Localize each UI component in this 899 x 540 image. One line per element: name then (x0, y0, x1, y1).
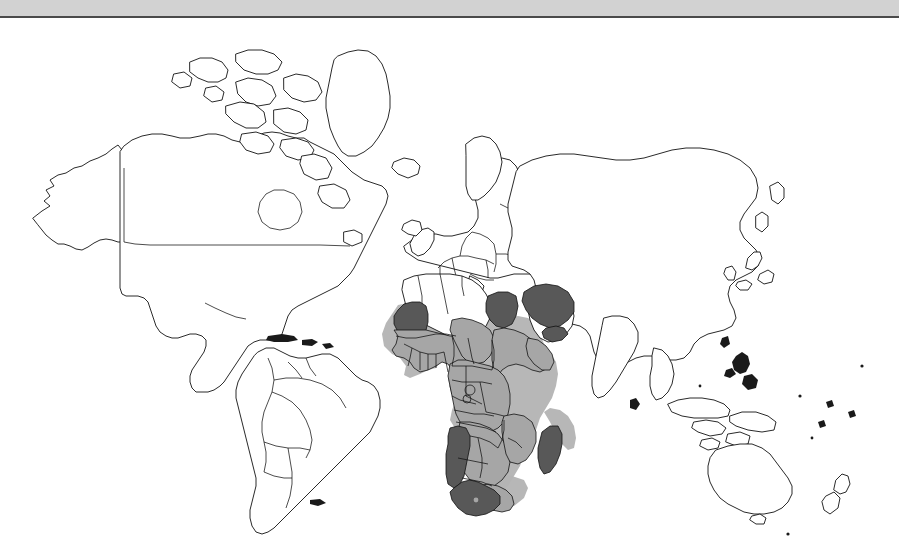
oceania-landmass (668, 364, 864, 535)
screenshot-root (0, 0, 899, 540)
map-canvas[interactable] (0, 18, 899, 540)
window-titlebar (0, 0, 899, 16)
world-map-svg[interactable] (0, 18, 899, 540)
region-lesotho (474, 498, 479, 503)
region-madagascar (538, 426, 562, 474)
north-america-landmass (33, 50, 420, 392)
south-america-landmass (236, 348, 380, 534)
